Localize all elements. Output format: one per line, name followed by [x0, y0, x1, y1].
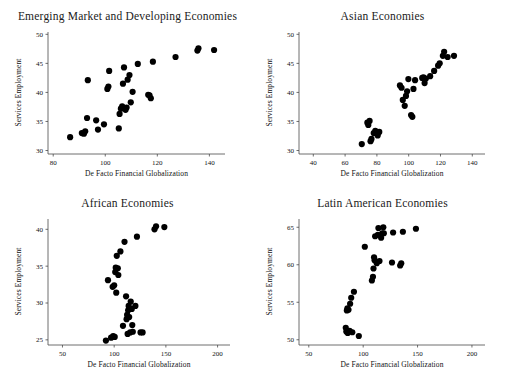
data-point	[351, 289, 357, 295]
data-point	[121, 64, 127, 70]
data-point	[402, 103, 408, 109]
x-tick-label: 140	[204, 159, 215, 167]
panel-2: Asian Economies3035404550406080100120140…	[255, 0, 510, 191]
data-point	[431, 68, 437, 74]
data-point	[148, 95, 154, 101]
data-point	[211, 47, 217, 53]
x-tick-label: 120	[152, 159, 163, 167]
x-axis-label: De Facto Financial Globalization	[299, 169, 485, 178]
y-tick-label: 55	[287, 299, 295, 307]
data-point	[85, 77, 91, 83]
data-point	[427, 73, 433, 79]
x-tick-label: 100	[403, 159, 414, 167]
y-tick-label: 65	[287, 224, 295, 232]
data-point	[445, 54, 451, 60]
data-point	[67, 134, 73, 140]
scatter-series	[343, 224, 419, 339]
x-axis-label: De Facto Financial Globalization	[48, 169, 225, 178]
y-axis-label: Services Employment	[265, 17, 274, 169]
y-tick-label: 40	[36, 89, 44, 97]
data-point	[370, 274, 376, 280]
x-tick-label: 150	[412, 350, 423, 358]
data-point	[389, 259, 395, 265]
data-point	[134, 234, 140, 240]
scatter-panel-figure: Emerging Market and Developing Economies…	[0, 0, 510, 383]
data-point	[105, 277, 111, 283]
x-tick-label: 100	[109, 350, 120, 358]
data-point	[368, 136, 374, 142]
y-tick-label: 30	[36, 147, 44, 155]
data-point	[150, 59, 156, 65]
data-point	[398, 260, 404, 266]
data-point	[345, 307, 351, 313]
data-point	[451, 53, 457, 59]
y-tick-label: 45	[36, 60, 44, 68]
data-point	[82, 128, 88, 134]
scatter-series	[359, 49, 457, 148]
data-point	[347, 301, 353, 307]
data-point	[405, 76, 411, 82]
data-point	[135, 61, 141, 67]
data-point	[84, 115, 90, 121]
x-axis-label: De Facto Financial Globalization	[48, 360, 230, 369]
data-point	[128, 298, 134, 304]
data-point	[410, 86, 416, 92]
data-point	[116, 125, 122, 131]
data-point	[172, 54, 178, 60]
data-point	[140, 329, 146, 335]
data-point	[161, 224, 167, 230]
y-tick-label: 40	[36, 226, 44, 234]
data-point	[359, 141, 365, 147]
scatter-series	[103, 223, 168, 343]
x-tick-label: 100	[358, 350, 369, 358]
data-point	[115, 272, 121, 278]
y-tick-label: 30	[287, 147, 295, 155]
data-point	[124, 104, 130, 110]
data-point	[349, 329, 355, 335]
data-point	[120, 81, 126, 87]
data-point	[362, 244, 368, 250]
data-point	[413, 226, 419, 232]
x-tick-label: 80	[373, 159, 381, 167]
data-point	[441, 49, 447, 55]
data-point	[126, 72, 132, 78]
panel-4: Latin American Economies5055606550100150…	[255, 191, 510, 383]
x-tick-label: 100	[100, 159, 111, 167]
x-tick-label: 140	[467, 159, 478, 167]
x-tick-label: 150	[161, 350, 172, 358]
data-point	[398, 85, 404, 91]
data-point	[195, 45, 201, 51]
data-point	[376, 258, 382, 264]
data-point	[93, 117, 99, 123]
data-point	[126, 314, 132, 320]
x-tick-label: 200	[467, 350, 478, 358]
data-point	[105, 84, 111, 90]
y-tick-label: 50	[287, 31, 295, 39]
plot-area: 2530354050100150200	[0, 191, 255, 383]
data-point	[112, 334, 118, 340]
panel-1: Emerging Market and Developing Economies…	[0, 0, 255, 191]
data-point	[390, 229, 396, 235]
data-point	[409, 114, 415, 120]
y-tick-label: 35	[36, 118, 44, 126]
y-tick-label: 45	[287, 60, 295, 68]
data-point	[121, 239, 127, 245]
panel-3: African Economies2530354050100150200Serv…	[0, 191, 255, 383]
y-axis-label: Services Employment	[265, 204, 274, 360]
data-point	[95, 127, 101, 133]
data-point	[106, 68, 112, 74]
plot-area: 3035404550406080100120140	[255, 0, 510, 191]
data-point	[348, 295, 354, 301]
data-point	[381, 230, 387, 236]
y-tick-label: 50	[287, 336, 295, 344]
data-point	[111, 282, 117, 288]
data-point	[117, 248, 123, 254]
x-tick-label: 50	[59, 350, 67, 358]
x-tick-label: 80	[50, 159, 58, 167]
x-tick-label: 40	[310, 159, 318, 167]
x-axis-label: De Facto Financial Globalization	[299, 360, 485, 369]
y-tick-label: 50	[36, 31, 44, 39]
x-tick-label: 200	[212, 350, 223, 358]
plot-area: 303540455080100120140	[0, 0, 255, 191]
data-point	[153, 223, 159, 229]
